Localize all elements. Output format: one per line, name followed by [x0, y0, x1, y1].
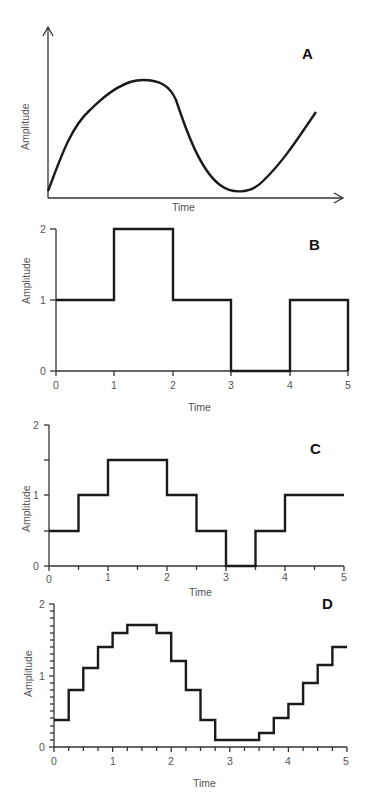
y-tick-label: 2	[40, 223, 46, 235]
x-tick-label: 5	[345, 379, 351, 391]
x-tick-label: 1	[105, 571, 111, 583]
panel-letter-b: B	[309, 236, 320, 253]
x-tick-label: 4	[282, 571, 288, 583]
x-tick-label: 4	[287, 379, 293, 391]
panel-letter-d: D	[322, 595, 333, 612]
y-axis-title: Amplitude	[20, 257, 32, 304]
x-tick-label: 3	[228, 379, 234, 391]
x-tick-label: 4	[285, 755, 291, 767]
x-tick-label: 1	[111, 379, 117, 391]
analog-waveform	[48, 80, 316, 191]
x-ticks	[49, 566, 344, 571]
x-tick-label: 0	[46, 573, 52, 585]
x-tick-label: 0	[53, 379, 59, 391]
x-axis-title: Time	[172, 201, 195, 213]
x-tick-label: 3	[223, 571, 229, 583]
y-tick-label: 0	[33, 560, 39, 572]
x-tick-label: 5	[341, 571, 347, 583]
y-axis-title: Amplitude	[20, 485, 32, 532]
y-axis-title: Amplitude	[19, 103, 31, 150]
y-tick-label: 2	[39, 598, 45, 610]
figure-canvas: A Amplitude Time 2 1 0 0 1 2 3 4 5 B Amp…	[0, 0, 370, 799]
x-tick-label: 5	[343, 755, 349, 767]
x-axis-title: Time	[188, 401, 211, 413]
x-tick-label: 2	[168, 755, 174, 767]
sampled-signal-0-25s	[54, 625, 347, 740]
panel-c: 2 1 0 0 1 2 3 4 5 C Amplitude Time	[20, 419, 347, 598]
panel-letter-c: C	[310, 440, 321, 457]
x-tick-label: 3	[227, 755, 233, 767]
y-tick-label: 1	[40, 294, 46, 306]
sampled-signal-1s	[56, 229, 348, 371]
x-tick-label: 1	[110, 755, 116, 767]
x-ticks	[54, 747, 347, 752]
y-tick-label: 0	[39, 741, 45, 753]
x-axis-title: Time	[189, 586, 212, 598]
x-tick-label: 2	[170, 379, 176, 391]
panel-d: 2 1 0 0 1 2 3 4 5 D Amplitude Time	[22, 595, 349, 789]
x-tick-label: 2	[164, 571, 170, 583]
y-axis-title: Amplitude	[22, 650, 34, 697]
sampled-signal-0-5s	[49, 460, 344, 566]
y-tick-label: 0	[40, 365, 46, 377]
x-axis-title: Time	[193, 777, 216, 789]
panel-a: A Amplitude Time	[19, 27, 343, 213]
panel-letter-a: A	[302, 45, 313, 62]
y-tick-label: 1	[39, 670, 45, 682]
y-tick-label: 2	[33, 419, 39, 431]
y-ticks	[49, 604, 54, 747]
y-tick-label: 1	[33, 489, 39, 501]
x-ticks	[56, 371, 348, 376]
panel-b: 2 1 0 0 1 2 3 4 5 B Amplitude Time	[20, 223, 351, 413]
x-tick-label: 0	[51, 755, 57, 767]
